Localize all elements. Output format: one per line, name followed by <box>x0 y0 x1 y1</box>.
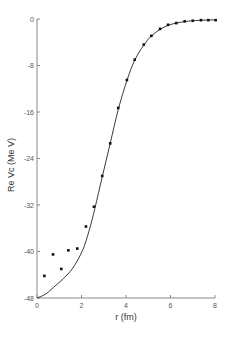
data-point <box>93 205 96 208</box>
data-point <box>52 253 55 256</box>
x-tick-label: 8 <box>213 302 217 309</box>
data-point <box>207 19 210 22</box>
x-tick-label: 2 <box>80 302 84 309</box>
data-point <box>60 268 63 271</box>
y-tick-label: -24 <box>24 155 34 162</box>
fit-curve <box>37 20 215 298</box>
y-ticks: 0-8-16-24-32-40-48 <box>24 16 40 302</box>
data-point <box>214 19 217 22</box>
data-point <box>101 175 104 178</box>
data-point <box>43 275 46 278</box>
data-point <box>133 58 136 61</box>
data-point <box>126 79 129 82</box>
axes <box>37 19 215 298</box>
data-point <box>117 107 120 110</box>
chart: 0-8-16-24-32-40-48 02468 Re Vc (Me V) r … <box>0 0 229 338</box>
data-point <box>67 249 70 252</box>
data-point <box>175 22 178 25</box>
x-ticks: 02468 <box>35 295 217 309</box>
x-tick-label: 6 <box>169 302 173 309</box>
data-point <box>150 35 153 38</box>
y-tick-label: -48 <box>24 295 34 302</box>
y-axis-title: Re Vc (Me V) <box>6 138 16 192</box>
x-tick-label: 4 <box>124 302 128 309</box>
data-point <box>167 24 170 27</box>
data-point <box>191 19 194 22</box>
data-point <box>143 43 146 46</box>
y-tick-label: -16 <box>24 109 34 116</box>
data-point <box>76 247 79 250</box>
data-points <box>43 19 217 277</box>
data-point <box>85 225 88 228</box>
y-tick-label: 0 <box>30 16 34 23</box>
y-tick-label: -32 <box>24 202 34 209</box>
x-tick-label: 0 <box>35 302 39 309</box>
data-point <box>200 19 203 22</box>
y-tick-label: -8 <box>28 62 34 69</box>
data-point <box>159 28 162 31</box>
data-point <box>183 20 186 23</box>
x-axis-title: r (fm) <box>115 312 137 322</box>
y-tick-label: -40 <box>24 248 34 255</box>
data-point <box>109 142 112 145</box>
